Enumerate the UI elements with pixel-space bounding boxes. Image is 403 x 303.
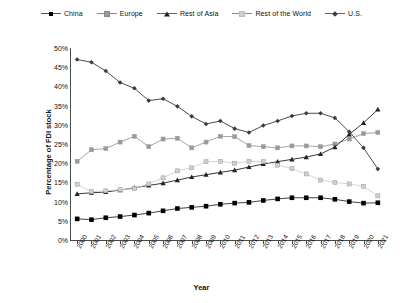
data-point-marker (218, 119, 223, 124)
data-point-marker (376, 194, 380, 198)
series-lines (70, 48, 385, 240)
data-point-marker (89, 217, 94, 222)
data-point-marker (261, 123, 266, 128)
data-point-marker (276, 146, 280, 150)
data-point-marker (103, 215, 108, 220)
y-axis-tick-labels: 50%45%40%35%30%25%20%15%10%5%0% (0, 0, 68, 303)
legend-swatch (232, 13, 252, 14)
data-point-marker (118, 214, 123, 219)
data-point-marker (75, 217, 80, 222)
data-point-marker (75, 182, 79, 186)
data-point-marker (276, 163, 280, 167)
data-point-marker (132, 213, 137, 218)
legend-marker-icon (239, 11, 245, 17)
legend-item-label: Rest of the World (255, 10, 311, 17)
data-point-marker (161, 209, 166, 214)
data-point-marker (118, 140, 122, 144)
legend-marker-icon (332, 11, 338, 17)
legend-item-label: Europe (120, 10, 143, 17)
data-point-marker (261, 145, 265, 149)
data-point-marker (319, 178, 323, 182)
legend-item[interactable]: Rest of the World (232, 10, 311, 17)
legend-item-label: Rest of Asia (180, 10, 219, 17)
data-point-marker (376, 200, 381, 205)
data-point-marker (275, 197, 280, 202)
y-axis-tick: 30% (54, 121, 68, 128)
y-axis-tick: 35% (54, 102, 68, 109)
data-point-marker (204, 122, 209, 127)
data-point-marker (147, 145, 151, 149)
data-point-marker (204, 140, 208, 144)
data-point-marker (361, 201, 366, 206)
data-point-marker (247, 144, 251, 148)
data-point-marker (290, 195, 295, 200)
y-axis-tick: 0% (58, 237, 68, 244)
data-point-marker (304, 144, 308, 148)
data-point-marker (333, 197, 338, 202)
y-axis-tick: 45% (54, 64, 68, 71)
data-point-marker (375, 107, 380, 112)
y-axis-tick: 25% (54, 141, 68, 148)
series-line (77, 60, 378, 169)
legend-marker-icon (104, 11, 110, 17)
data-point-marker (347, 182, 351, 186)
data-point-marker (347, 199, 352, 204)
data-point-marker (204, 204, 209, 209)
data-point-marker (190, 166, 194, 170)
data-point-marker (376, 130, 380, 134)
y-axis-tick: 15% (54, 179, 68, 186)
data-point-marker (75, 159, 79, 163)
data-point-marker (333, 180, 337, 184)
data-point-marker (247, 200, 252, 205)
data-point-marker (161, 137, 165, 141)
legend-swatch (157, 13, 177, 14)
legend-item[interactable]: U.S. (325, 10, 362, 17)
legend-item[interactable]: Europe (97, 10, 143, 17)
legend-swatch (325, 13, 345, 14)
data-point-marker (118, 188, 122, 192)
data-point-marker (319, 145, 323, 149)
data-point-marker (147, 182, 151, 186)
data-point-marker (290, 144, 294, 148)
data-point-marker (204, 160, 208, 164)
data-point-marker (89, 148, 93, 152)
data-point-marker (218, 134, 222, 138)
data-point-marker (233, 135, 237, 139)
data-point-marker (104, 147, 108, 151)
y-axis-tick: 20% (54, 160, 68, 167)
y-axis-tick: 10% (54, 198, 68, 205)
data-point-marker (132, 187, 136, 191)
series-line (77, 132, 378, 161)
data-point-marker (132, 134, 136, 138)
y-axis-tick: 50% (54, 45, 68, 52)
data-point-marker (304, 195, 309, 200)
data-point-marker (104, 189, 108, 193)
data-point-marker (304, 172, 308, 176)
data-point-marker (161, 96, 166, 101)
data-point-marker (247, 159, 251, 163)
legend-swatch (97, 13, 117, 14)
series-u-s- (75, 57, 380, 171)
data-point-marker (318, 195, 323, 200)
y-axis-tick: 40% (54, 83, 68, 90)
data-point-marker (362, 184, 366, 188)
data-point-marker (347, 137, 351, 141)
y-axis-tick: 5% (58, 217, 68, 224)
series-china (75, 195, 380, 221)
data-point-marker (232, 201, 237, 206)
data-point-marker (318, 111, 323, 116)
data-point-marker (232, 126, 237, 131)
data-point-marker (290, 114, 295, 119)
data-point-marker (189, 205, 194, 210)
data-point-marker (218, 159, 222, 163)
data-point-marker (75, 57, 80, 62)
data-point-marker (275, 119, 280, 124)
data-point-marker (247, 130, 252, 135)
data-point-marker (161, 176, 165, 180)
data-point-marker (318, 151, 323, 156)
data-point-marker (233, 161, 237, 165)
data-point-marker (146, 211, 151, 216)
legend-item-label: U.S. (348, 10, 362, 17)
legend-item[interactable]: Rest of Asia (157, 10, 219, 17)
data-point-marker (290, 167, 294, 171)
